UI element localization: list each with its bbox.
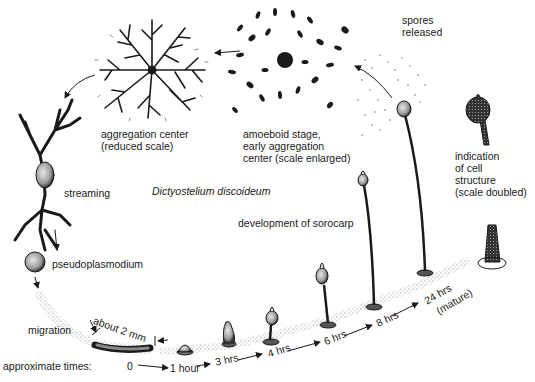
amoeboid-stage-drawing — [228, 8, 350, 114]
arrow-amoeboid-to-aggregation — [215, 51, 240, 53]
arrow-spores-to-amoeboid — [355, 66, 392, 98]
cell-structure-line1: indication — [455, 150, 527, 162]
cell-structure-label: indication of cell structure (scale doub… — [455, 150, 527, 198]
amoeboid-stage-label: amoeboid stage, early aggregation center… — [243, 128, 350, 164]
pseudoplasmodium-drawing — [25, 252, 45, 272]
spore-cloud — [357, 54, 425, 135]
sorocarp-label: development of sorocarp — [238, 217, 354, 229]
species-title: Dictyostelium discoideum — [152, 185, 270, 197]
aggregation-center-line2: (reduced scale) — [101, 140, 189, 152]
cell-structure-line4: (scale doubled) — [455, 186, 527, 198]
cell-structure-line2: of cell — [455, 162, 527, 174]
spores-released-label: spores released — [402, 14, 442, 38]
aggregation-center-drawing — [95, 20, 208, 121]
spores-line1: spores — [402, 14, 442, 26]
migration-label: migration — [28, 324, 71, 336]
dictyostelium-life-cycle-diagram: aggregation center (reduced scale) amoeb… — [0, 0, 535, 382]
arrow-aggregation-to-streaming — [65, 75, 95, 98]
amoeboid-line1: amoeboid stage, — [243, 128, 350, 140]
time-1-hour: 1 hour — [170, 362, 200, 374]
amoeboid-line3: center (scale enlarged) — [243, 152, 350, 164]
cell-structure-line3: structure — [455, 174, 527, 186]
timeline-label: approximate times: — [3, 360, 92, 372]
time-0: 0 — [127, 360, 133, 372]
spores-line2: released — [402, 26, 442, 38]
streaming-drawing — [15, 100, 80, 250]
pseudoplasmodium-label: pseudoplasmodium — [52, 258, 143, 270]
aggregation-center-label: aggregation center (reduced scale) — [101, 128, 189, 152]
streaming-label: streaming — [64, 187, 110, 199]
amoeboid-line2: early aggregation — [243, 140, 350, 152]
aggregation-center-line1: aggregation center — [101, 128, 189, 140]
